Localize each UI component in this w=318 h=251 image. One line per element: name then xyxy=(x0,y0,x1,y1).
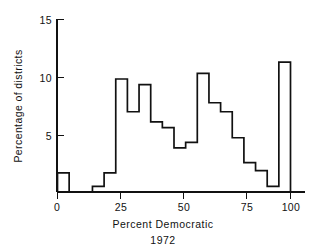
y-tick-label-10: 10 xyxy=(40,72,52,84)
y-axis-ticks xyxy=(57,20,64,136)
y-axis-tick-labels: 15 10 5 xyxy=(40,14,52,142)
x-tick-label-100: 100 xyxy=(282,201,301,213)
x-axis-title: Percent Democratic xyxy=(112,218,213,230)
x-axis-subtitle: 1972 xyxy=(150,234,175,246)
y-tick-label-5: 5 xyxy=(46,130,52,142)
x-tick-label-0: 0 xyxy=(54,201,60,213)
histogram-plot: 15 10 5 0 25 50 75 100 Percent Democrati… xyxy=(0,0,318,251)
x-axis-tick-labels: 0 25 50 75 100 xyxy=(54,201,300,213)
y-axis-title: Percentage of districts xyxy=(12,49,24,162)
y-tick-label-15: 15 xyxy=(40,14,52,26)
x-axis-ticks xyxy=(58,192,291,199)
x-tick-label-50: 50 xyxy=(178,201,190,213)
histogram-step-outline xyxy=(58,62,291,192)
x-tick-label-75: 75 xyxy=(241,201,253,213)
x-tick-label-25: 25 xyxy=(115,201,127,213)
histogram-figure: 15 10 5 0 25 50 75 100 Percent Democrati… xyxy=(0,0,318,251)
